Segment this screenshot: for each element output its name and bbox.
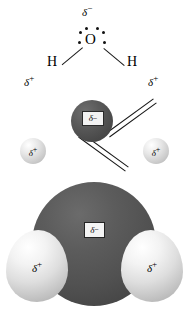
ball-and-stick-panel: δ− δ+ δ+ [0, 96, 189, 182]
lone-pair-dot [85, 27, 88, 30]
space-filling-hydrogen-left-partial-positive-label: δ+ [32, 259, 42, 274]
space-filling-hydrogen-right-sphere: δ+ [121, 230, 183, 302]
lewis-oxygen-symbol: O [85, 32, 96, 47]
lewis-hydrogen-right-partial-positive-label: δ+ [148, 74, 158, 88]
lone-pair-dot [79, 31, 82, 34]
lewis-bond-right [103, 48, 124, 66]
lewis-oxygen-partial-negative-label: δ− [82, 4, 92, 18]
lone-pair-dot [96, 27, 99, 30]
lewis-hydrogen-right-symbol: H [127, 55, 137, 69]
lewis-bond-left [62, 47, 83, 65]
space-filling-hydrogen-left-sphere: δ+ [6, 230, 68, 302]
lewis-hydrogen-left-partial-positive-label: δ+ [24, 74, 34, 88]
space-filling-panel: δ− δ+ δ+ [0, 182, 189, 316]
ball-stick-hydrogen-right-partial-positive-label: δ+ [152, 145, 161, 158]
lewis-hydrogen-left-symbol: H [47, 55, 57, 69]
bonding-pair-dot [103, 41, 106, 44]
space-filling-oxygen-partial-negative-label: δ− [84, 222, 105, 238]
ball-stick-hydrogen-right-sphere: δ+ [143, 138, 169, 164]
lewis-structure-panel: δ− O H H δ+ δ+ [0, 0, 189, 96]
ball-stick-oxygen-partial-negative-label: δ− [82, 111, 104, 126]
space-filling-hydrogen-right-partial-positive-label: δ+ [147, 259, 157, 274]
water-molecule-figure: δ− O H H δ+ δ+ δ− δ+ δ+ [0, 0, 189, 316]
bonding-pair-dot [78, 41, 81, 44]
ball-stick-hydrogen-left-sphere: δ+ [20, 138, 46, 164]
lone-pair-dot [102, 31, 105, 34]
ball-stick-bond-right [106, 98, 156, 137]
ball-stick-hydrogen-left-partial-positive-label: δ+ [29, 145, 38, 158]
